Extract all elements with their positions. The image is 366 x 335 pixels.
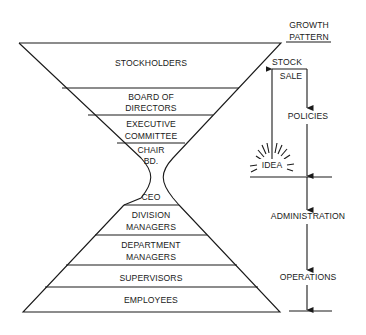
hourglass-outline xyxy=(19,43,281,312)
growth-pattern-title: GROWTH PATTERN xyxy=(286,20,331,42)
stock-sale-line2: SALE xyxy=(280,71,303,81)
label-ceo: CEO xyxy=(142,192,161,202)
stock-sale-line1: STOCK xyxy=(272,57,302,67)
label-department-line2: MANAGERS xyxy=(126,252,176,262)
label-exec-line2: COMMITTEE xyxy=(125,131,178,141)
label-board-line2: DIRECTORS xyxy=(125,103,177,113)
label-exec-line1: EXECUTIVE xyxy=(126,119,176,129)
label-operations: OPERATIONS xyxy=(280,272,337,282)
label-employees: EMPLOYEES xyxy=(124,295,178,305)
label-chair-line2: BD. xyxy=(144,156,159,166)
label-supervisors: SUPERVISORS xyxy=(119,273,182,283)
label-department-line1: DEPARTMENT xyxy=(121,240,181,250)
label-idea: IDEA xyxy=(262,160,283,170)
growth-pattern-diagram: STOCKHOLDERS BOARD OF DIRECTORS EXECUTIV… xyxy=(0,0,366,335)
lower-level-labels: CEO DIVISION MANAGERS DEPARTMENT MANAGER… xyxy=(119,192,182,305)
label-administration: ADMINISTRATION xyxy=(271,211,345,221)
title-line1: GROWTH xyxy=(289,20,329,30)
growth-flow: STOCK SALE POLICIES IDEA xyxy=(250,57,345,311)
upper-level-labels: STOCKHOLDERS BOARD OF DIRECTORS EXECUTIV… xyxy=(115,58,187,166)
label-division-line2: MANAGERS xyxy=(126,222,176,232)
label-board-line1: BOARD OF xyxy=(128,92,174,102)
label-chair-line1: CHAIR xyxy=(137,145,164,155)
label-stockholders: STOCKHOLDERS xyxy=(115,58,187,68)
label-policies: POLICIES xyxy=(288,111,329,121)
title-line2: PATTERN xyxy=(289,32,329,42)
label-division-line1: DIVISION xyxy=(132,210,171,220)
